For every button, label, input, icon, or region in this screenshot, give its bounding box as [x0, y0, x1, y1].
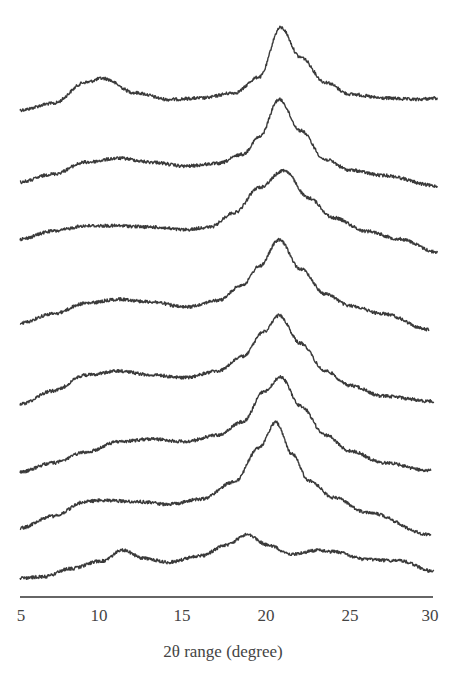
xrd-trace — [20, 238, 429, 330]
xrd-stacked-chart: 5 10 15 20 25 30 2θ range (degree) — [0, 0, 461, 679]
x-tick-label: 5 — [17, 606, 26, 625]
xrd-trace — [20, 314, 434, 405]
x-tick-label: 10 — [91, 606, 108, 625]
x-axis-title: 2θ range (degree) — [163, 642, 283, 661]
xrd-traces — [20, 26, 437, 579]
x-tick-label: 30 — [422, 606, 439, 625]
xrd-trace — [20, 421, 431, 536]
xrd-trace — [20, 169, 437, 253]
x-tick-label: 20 — [258, 606, 275, 625]
xrd-trace — [20, 26, 437, 111]
x-tick-label: 15 — [174, 606, 191, 625]
x-tick-label: 25 — [342, 606, 359, 625]
x-axis-ticks: 5 10 15 20 25 30 — [17, 606, 439, 625]
xrd-trace — [20, 98, 437, 187]
xrd-trace — [20, 533, 434, 579]
